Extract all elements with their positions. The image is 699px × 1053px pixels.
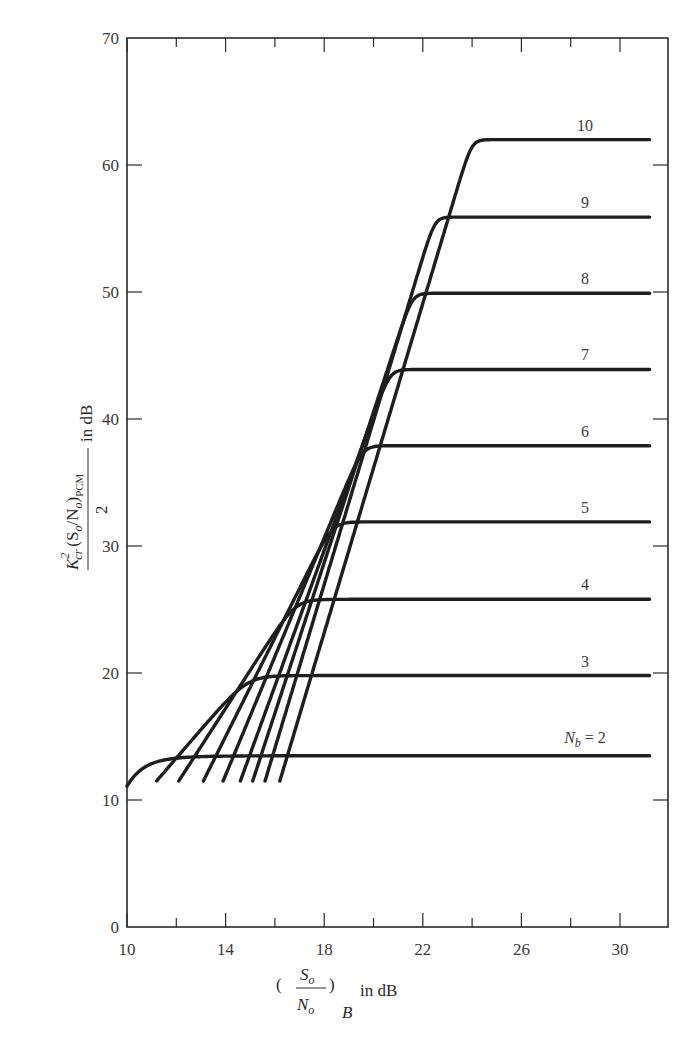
y-tick-label: 60: [102, 156, 119, 175]
x-tick-label: 26: [513, 940, 530, 959]
x-label-close-paren: ): [329, 975, 335, 994]
y-tick-label: 10: [102, 791, 119, 810]
curve-label-nb-9: 9: [581, 194, 589, 211]
curve-label-nb-7: 7: [581, 346, 589, 363]
curves: [127, 140, 650, 786]
y-label-numerator: K2cr(So/No)PCM: [58, 473, 85, 571]
y-tick-label: 70: [102, 29, 119, 48]
x-tick-label: 14: [217, 940, 235, 959]
curve-label-nb-5: 5: [581, 499, 589, 516]
y-label-unit: in dB: [77, 405, 96, 442]
y-tick-label: 30: [102, 537, 119, 556]
plot-frame: [127, 38, 668, 927]
curve-label-nb-3: 3: [581, 653, 589, 670]
x-label-open-paren: (: [276, 975, 282, 994]
curve-label-nb-2: Nb = 2: [563, 729, 606, 750]
x-label-unit: in dB: [360, 981, 397, 1000]
curve-label-nb-6: 6: [581, 423, 589, 440]
curve-label-nb-4: 4: [581, 576, 589, 593]
curve-nb-9: [265, 217, 650, 781]
y-tick-label: 0: [111, 918, 120, 937]
y-tick-label: 50: [102, 283, 119, 302]
x-tick-label: 10: [119, 940, 136, 959]
curve-nb-10: [280, 140, 650, 781]
x-tick-label: 18: [316, 940, 333, 959]
curve-nb-2: [127, 756, 650, 786]
x-label-numerator: So: [300, 965, 315, 987]
y-tick-label: 20: [102, 664, 119, 683]
pcm-performance-chart: 101418222630 010203040506070 Nb = 234567…: [0, 0, 699, 1053]
curve-label-nb-10: 10: [577, 117, 593, 134]
curve-nb-8: [253, 293, 650, 781]
x-axis-ticks: 101418222630: [119, 38, 629, 959]
y-axis-ticks: 010203040506070: [102, 29, 668, 937]
y-tick-label: 40: [102, 410, 119, 429]
curve-label-nb-8: 8: [581, 270, 589, 287]
curve-labels: Nb = 2345678910: [563, 117, 606, 750]
x-tick-label: 30: [612, 940, 629, 959]
x-axis-label: ( So No ) B in dB: [276, 965, 397, 1022]
x-tick-label: 22: [414, 940, 431, 959]
plot-border: [127, 38, 668, 927]
y-label-denominator: 2: [92, 506, 111, 515]
x-label-denominator: No: [296, 995, 314, 1017]
x-label-subscript: B: [342, 1003, 353, 1022]
